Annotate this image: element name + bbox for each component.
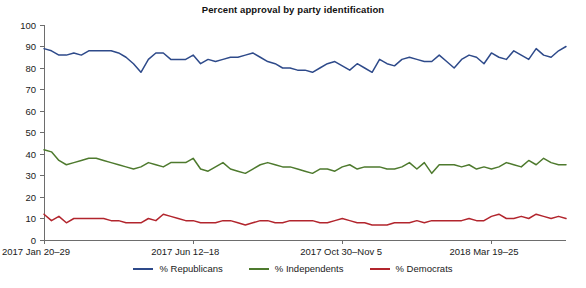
chart-container: Percent approval by party identification… (0, 0, 586, 288)
y-tick-label: 80 (25, 63, 36, 74)
series-lines (44, 47, 566, 225)
y-axis: 0102030405060708090100 (20, 20, 44, 246)
series-line-independents (44, 150, 566, 174)
series-line-democrats (44, 214, 566, 225)
y-tick-label: 10 (25, 213, 36, 224)
y-tick-label: 0 (31, 235, 36, 246)
legend-item[interactable]: % Democrats (370, 263, 453, 274)
legend-swatch-icon (249, 268, 269, 270)
x-tick-label: 2017 Oct 30–Nov 5 (300, 246, 382, 257)
x-tick-label: 2018 Mar 19–25 (449, 246, 518, 257)
series-line-republicans (44, 47, 566, 73)
y-tick-label: 20 (25, 192, 36, 203)
x-tick-label: 2017 Jun 12–18 (151, 246, 219, 257)
y-tick-label: 90 (25, 41, 36, 52)
y-tick-label: 70 (25, 84, 36, 95)
y-tick-label: 30 (25, 170, 36, 181)
chart-plot-area: 0102030405060708090100 2017 Jan 20–29201… (0, 0, 586, 288)
legend-label: % Republicans (159, 263, 222, 274)
x-tick-label: 2017 Jan 20–29 (2, 246, 70, 257)
y-tick-label: 60 (25, 106, 36, 117)
legend-item[interactable]: % Independents (249, 263, 344, 274)
legend-swatch-icon (133, 268, 153, 270)
x-axis: 2017 Jan 20–292017 Jun 12–182017 Oct 30–… (2, 240, 566, 257)
chart-legend: % Republicans% Independents% Democrats (0, 263, 586, 274)
legend-label: % Independents (275, 263, 344, 274)
legend-label: % Democrats (396, 263, 453, 274)
legend-swatch-icon (370, 268, 390, 270)
y-tick-label: 40 (25, 149, 36, 160)
y-tick-label: 50 (25, 127, 36, 138)
y-tick-label: 100 (20, 20, 36, 31)
legend-item[interactable]: % Republicans (133, 263, 222, 274)
